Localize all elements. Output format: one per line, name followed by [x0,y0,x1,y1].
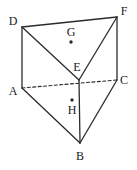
point-dot-H [70,98,73,101]
edge-AC [22,80,117,88]
vertex-label-E: E [73,61,80,73]
vertex-label-A: A [9,85,18,97]
edge-BC [80,80,117,143]
vertex-label-C: C [120,74,128,86]
edge-EF [79,17,117,80]
point-dot-G [69,40,72,43]
edge-EB [79,80,80,143]
vertex-label-F: F [121,5,128,17]
point-label-H: H [68,104,77,116]
vertex-label-B: B [76,150,84,162]
vertex-label-D: D [9,15,18,27]
point-label-G: G [67,26,76,38]
prism-figure: DFEACBGH [0,0,137,170]
